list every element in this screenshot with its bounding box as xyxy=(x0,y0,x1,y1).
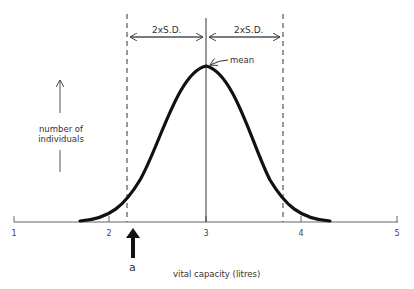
y-axis-label-line2: individuals xyxy=(34,134,88,144)
x-axis-label: vital capacity (litres) xyxy=(173,270,260,279)
sd-label-right: 2xS.D. xyxy=(234,26,263,35)
y-axis-label-line1: number of xyxy=(34,124,88,134)
x-tick-1: 1 xyxy=(11,230,16,238)
mean-label: mean xyxy=(230,56,254,65)
mean-pointer-arrow xyxy=(210,60,228,65)
y-axis-label: number of individuals xyxy=(34,124,88,144)
x-tick-5: 5 xyxy=(394,230,399,238)
distribution-diagram xyxy=(0,0,414,289)
marker-a-arrow xyxy=(126,228,140,258)
sd-label-left: 2xS.D. xyxy=(152,26,181,35)
marker-a-label: a xyxy=(129,262,136,273)
x-tick-2: 2 xyxy=(106,230,111,238)
x-tick-3: 3 xyxy=(203,230,208,238)
x-tick-4: 4 xyxy=(298,230,303,238)
bell-curve xyxy=(80,66,330,221)
